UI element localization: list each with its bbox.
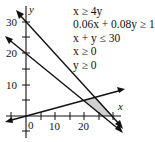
y-axis-label: y (28, 3, 34, 15)
x-axis-label: x (117, 100, 123, 112)
tick-label-x20: 20 (78, 120, 90, 132)
constraint-1: x ≥ 4y (73, 5, 155, 18)
tick-label-origin: 0 (28, 119, 34, 131)
constraint-2: 0.06x + 0.08y ≥ 1.6 (73, 18, 155, 31)
constraint-3: x + y ≤ 30 (73, 32, 155, 45)
tick-label-y20: 20 (6, 47, 18, 59)
constraint-5: y ≥ 0 (73, 59, 155, 72)
tick-label-x10: 10 (49, 120, 61, 132)
constraint-4: x ≥ 0 (73, 45, 155, 58)
tick-label-y10: 10 (6, 79, 18, 91)
arrowhead-icon (117, 87, 125, 93)
tick-label-y30: 30 (6, 16, 18, 28)
arrowhead-icon (115, 124, 123, 133)
arrowhead-icon (5, 117, 13, 123)
constraint-list: x ≥ 4y 0.06x + 0.08y ≥ 1.6 x + y ≤ 30 x … (73, 5, 155, 72)
